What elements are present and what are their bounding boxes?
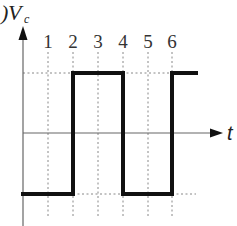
y-axis-label-subscript: c — [24, 12, 30, 26]
tick-guide-lines — [48, 52, 172, 216]
tick-label-5: 5 — [143, 31, 153, 52]
tick-label-6: 6 — [167, 31, 177, 52]
tick-label-3: 3 — [93, 31, 103, 52]
t-axis-label: t — [227, 122, 234, 144]
tick-label-4: 4 — [118, 31, 128, 52]
y-axis-label-main: V — [8, 0, 24, 25]
y-axis-label: ) V c — [0, 0, 30, 26]
t-axis-arrow-icon — [210, 129, 223, 138]
tick-labels: 1 2 3 4 5 6 — [43, 31, 177, 52]
tick-label-1: 1 — [43, 31, 53, 52]
tick-label-2: 2 — [68, 31, 78, 52]
y-axis-arrow-icon — [19, 26, 28, 40]
square-wave-diagram: 1 2 3 4 5 6 ) V c t — [0, 0, 237, 226]
